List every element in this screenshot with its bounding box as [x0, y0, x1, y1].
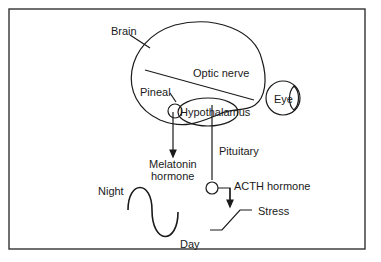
label-stress: Stress [258, 205, 289, 217]
day-night-wave [128, 188, 178, 237]
stress-curve [210, 210, 252, 230]
label-day: Day [180, 238, 200, 250]
label-melatonin-hormone: hormone [151, 170, 194, 182]
label-optic-nerve: Optic nerve [193, 67, 249, 79]
label-eye: Eye [274, 93, 293, 105]
diagram-frame [9, 9, 365, 249]
diagram-canvas [0, 0, 381, 262]
label-night: Night [98, 185, 124, 197]
label-pituitary: Pituitary [219, 145, 259, 157]
label-hypothalamus: Hypothalamus [180, 106, 250, 118]
pituitary-gland [206, 182, 218, 194]
label-pineal: Pineal [140, 86, 171, 98]
label-acth: ACTH hormone [234, 180, 310, 192]
label-melatonin: Melatonin [149, 158, 197, 170]
label-brain: Brain [111, 25, 137, 37]
